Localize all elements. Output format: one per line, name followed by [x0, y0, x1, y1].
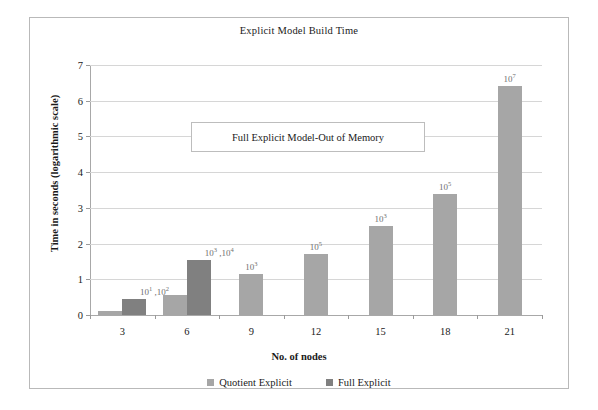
bar-group: 101 ,102: [90, 65, 155, 315]
x-tick-label: 12: [311, 326, 322, 337]
x-tick-mark: [413, 315, 414, 319]
bar-quotient-explicit[interactable]: 107: [498, 86, 522, 315]
y-tick-label: 6: [78, 95, 83, 106]
bar-group: 103: [219, 65, 284, 315]
legend-label: Quotient Explicit: [219, 377, 292, 388]
legend-item-quotient-explicit: Quotient Explicit: [207, 377, 292, 388]
x-tick-mark: [219, 315, 220, 319]
x-tick-mark: [90, 315, 91, 319]
x-tick-label: 21: [504, 326, 515, 337]
legend-item-full-explicit: Full Explicit: [326, 377, 391, 388]
bar-data-label: 103: [374, 212, 386, 224]
plot-area: 01234567 101 ,102103 ,104103105103105107…: [90, 65, 542, 315]
x-tick-label: 18: [440, 326, 451, 337]
legend-swatch-icon: [207, 379, 214, 386]
x-tick-label: 6: [184, 326, 189, 337]
bar-group: 107: [477, 65, 542, 315]
bar-full-explicit[interactable]: 103 ,104: [187, 260, 211, 315]
x-tick-label: 3: [120, 326, 125, 337]
bar-data-label: 103: [245, 260, 257, 272]
y-tick-label: 5: [78, 131, 83, 142]
bar-data-label: 107: [504, 72, 516, 84]
gridline: [90, 315, 542, 316]
x-tick-mark: [155, 315, 156, 319]
bar-group: 103: [348, 65, 413, 315]
y-tick-label: 2: [78, 238, 83, 249]
chart-legend: Quotient Explicit Full Explicit: [30, 377, 568, 388]
bar-quotient-explicit[interactable]: 105: [304, 254, 328, 315]
bar-quotient-explicit[interactable]: 103: [369, 226, 393, 315]
legend-label: Full Explicit: [338, 377, 391, 388]
bar-group: 103 ,104: [155, 65, 220, 315]
y-axis-label: Time in seconds (logarithmic scale): [49, 54, 60, 294]
bar-quotient-explicit[interactable]: 103: [239, 274, 263, 315]
x-tick-label: 9: [249, 326, 254, 337]
y-tick-label: 1: [78, 274, 83, 285]
annotation-box: Full Explicit Model-Out of Memory: [191, 122, 425, 152]
x-tick-mark: [348, 315, 349, 319]
x-tick-mark: [542, 315, 543, 319]
bar-full-explicit[interactable]: 101 ,102: [122, 299, 146, 315]
chart-figure: Explicit Model Build Time Time in second…: [29, 17, 569, 389]
y-tick-label: 7: [78, 60, 83, 71]
bar-quotient-explicit[interactable]: [98, 311, 122, 315]
bar-quotient-explicit[interactable]: [163, 295, 187, 315]
x-tick-label: 15: [375, 326, 386, 337]
annotation-text: Full Explicit Model-Out of Memory: [232, 132, 384, 143]
bar-data-label: 105: [439, 180, 451, 192]
bar-group: 105: [284, 65, 349, 315]
y-tick-label: 0: [78, 310, 83, 321]
bar-data-label: 105: [310, 240, 322, 252]
bar-group: 105: [413, 65, 478, 315]
x-axis-label: No. of nodes: [30, 351, 568, 362]
bar-quotient-explicit[interactable]: 105: [433, 194, 457, 315]
x-tick-mark: [477, 315, 478, 319]
y-tick-label: 3: [78, 202, 83, 213]
chart-title: Explicit Model Build Time: [30, 25, 568, 36]
y-tick-label: 4: [78, 167, 83, 178]
x-tick-mark: [284, 315, 285, 319]
legend-swatch-icon: [326, 379, 333, 386]
